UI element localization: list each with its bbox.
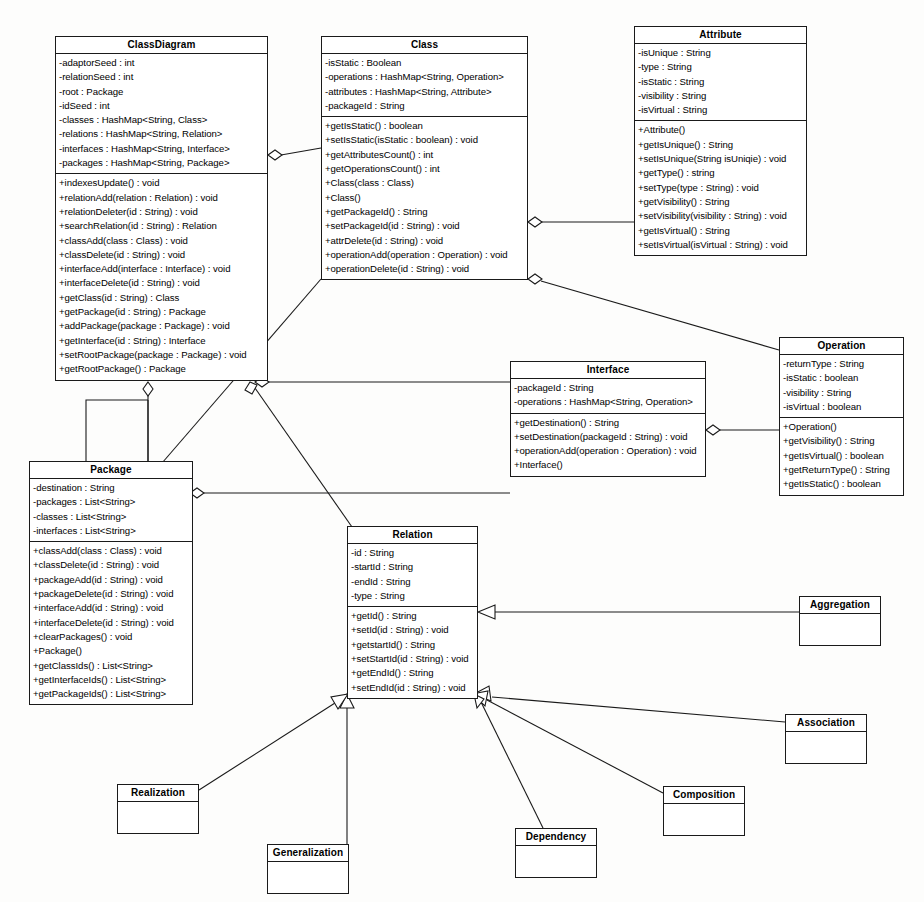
operations-item: +interfaceDelete(id : String) : void [33,616,190,630]
operations-item: +operationAdd(operation : Operation) : v… [325,248,525,262]
attributes-item: -type : String [638,60,804,74]
attributes-item: -classes : List<String> [33,510,190,524]
attributes-item: -adaptorSeed : int [59,56,265,70]
attributes-item: -packageId : String [325,99,525,113]
uml-class-class[interactable]: Class -isStatic : Boolean-operations : H… [321,36,528,280]
operations-item: +relationAdd(relation : Relation) : void [59,191,265,205]
operations-item: +getPackage(id : String) : Package [59,305,265,319]
class-title-dependency: Dependency [516,829,596,846]
operations-item: +classDelete(id : String) : void [59,248,265,262]
attributes-item: -isUnique : String [638,46,804,60]
operations-item: +setIsStatic(isStatic : boolean) : void [325,133,525,147]
operations-item: +operationDelete(id : String) : void [325,262,525,276]
triangle-aggregation [478,605,495,619]
edge-classdiagram-relation [255,388,352,527]
operations-item: +relationDeleter(id : String) : void [59,205,265,219]
operations-item: +getClassIds() : List<String> [33,659,190,673]
operations-item: +setType(type : String) : void [638,181,804,195]
uml-class-interface[interactable]: Interface -packageId : String-operations… [510,361,706,477]
operations-item: +interfaceAdd(id : String) : void [33,601,190,615]
attributes-item: -root : Package [59,85,265,99]
uml-class-composition[interactable]: Composition [663,786,745,836]
attributes-item: -endId : String [351,575,475,589]
class-title-package: Package [30,462,192,479]
operations-item: +getVisibility() : String [783,434,901,448]
operations-item: +attrDelete(id : String) : void [325,234,525,248]
operations-item: +interfaceAdd(interface : Interface) : v… [59,262,265,276]
uml-class-package[interactable]: Package -destination : String-packages :… [29,461,193,705]
operations-item: +getAttributesCount() : int [325,148,525,162]
operations-section-operation: +Operation()+getVisibility() : String+ge… [780,417,903,494]
edge-composition-relation [487,700,663,793]
attributes-section-class: -isStatic : Boolean-operations : HashMap… [322,54,527,116]
operations-item: +getReturnType() : String [783,463,901,477]
edge-class-operation [541,281,779,350]
operations-item: +getPackageId() : String [325,205,525,219]
attributes-item: -id : String [351,546,475,560]
class-title-relation: Relation [348,527,477,544]
edge-realization-relation [199,703,335,790]
operations-item: +Class(class : Class) [325,176,525,190]
attributes-item: -visibility : String [638,89,804,103]
class-title-operation: Operation [780,338,903,355]
attributes-item: -isStatic : boolean [783,371,901,385]
triangle-realization [331,694,348,709]
edge-dependency-relation [481,702,543,828]
operations-item: +packageAdd(id : String) : void [33,573,190,587]
attributes-item: -interfaces : HashMap<String, Interface> [59,142,265,156]
operations-item: +getClass(id : String) : Class [59,291,265,305]
operations-item: +getIsStatic() : boolean [783,477,901,491]
uml-class-diagram-canvas: ClassDiagram -adaptorSeed : int-relation… [0,0,924,902]
operations-item: +classAdd(class : Class) : void [33,544,190,558]
operations-item: +Operation() [783,420,901,434]
uml-class-classdiagram[interactable]: ClassDiagram -adaptorSeed : int-relation… [55,36,268,381]
attributes-item: -visibility : String [783,386,901,400]
operations-item: +getInterfaceIds() : List<String> [33,673,190,687]
uml-class-attribute[interactable]: Attribute -isUnique : String-type : Stri… [634,26,807,256]
operations-item: +operationAdd(operation : Operation) : v… [514,444,703,458]
operations-item: +getOperationsCount() : int [325,162,525,176]
operations-item: +clearPackages() : void [33,630,190,644]
diamond-class-operation [528,274,542,284]
operations-item: +getDestination() : String [514,416,703,430]
operations-section-relation: +getId() : String+setId(id : String) : v… [348,606,477,698]
class-title-class: Class [322,37,527,54]
attributes-item: -packages : HashMap<String, Package> [59,156,265,170]
attributes-item: -returnType : String [783,357,901,371]
attributes-item: -isVirtual : String [638,103,804,117]
operations-item: +setEndId(id : String) : void [351,681,475,695]
operations-item: +getIsUnique() : String [638,138,804,152]
class-title-attribute: Attribute [635,27,806,44]
operations-item: +getIsVirtual() : String [638,224,804,238]
attributes-item: -packageId : String [514,381,703,395]
class-title-realization: Realization [118,785,198,802]
edge-classdiagram-class [281,148,321,155]
operations-item: +Class() [325,191,525,205]
uml-class-realization[interactable]: Realization [117,784,199,834]
operations-section-package: +classAdd(class : Class) : void+classDel… [30,541,192,704]
diamond-interface-operation [706,425,720,435]
operations-item: +Package() [33,644,190,658]
operations-item: +interfaceDelete(id : String) : void [59,276,265,290]
operations-item: +packageDelete(id : String) : void [33,587,190,601]
operations-item: +setStartId(id : String) : void [351,652,475,666]
uml-class-association[interactable]: Association [785,714,867,764]
diamond-classdiagram-relation [245,382,257,394]
operations-item: +indexesUpdate() : void [59,176,265,190]
uml-class-dependency[interactable]: Dependency [515,828,597,878]
class-title-composition: Composition [664,787,744,804]
uml-class-aggregation[interactable]: Aggregation [799,596,881,646]
uml-class-generalization[interactable]: Generalization [267,844,349,894]
class-title-aggregation: Aggregation [800,597,880,614]
uml-class-operation[interactable]: Operation -returnType : String-isStatic … [779,337,904,496]
operations-item: +classDelete(id : String) : void [33,558,190,572]
attributes-item: -classes : HashMap<String, Class> [59,113,265,127]
operations-item: +Attribute() [638,123,804,137]
uml-class-relation[interactable]: Relation -id : String-startId : String-e… [347,526,478,699]
operations-item: +classAdd(class : Class) : void [59,234,265,248]
members-section-association [786,732,866,763]
edge-association-relation [492,697,785,722]
class-title-interface: Interface [511,362,705,379]
attributes-section-classdiagram: -adaptorSeed : int-relationSeed : int-ro… [56,54,267,173]
attributes-item: -operations : HashMap<String, Operation> [325,70,525,84]
